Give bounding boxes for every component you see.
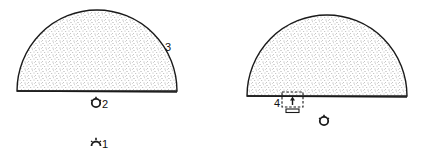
diagram-canvas: 3 2 1 4 xyxy=(0,0,422,149)
right-panel: 4 xyxy=(247,15,407,125)
right-dome xyxy=(247,15,407,96)
arrow-up-icon xyxy=(290,97,295,106)
source-label-2: 2 xyxy=(102,98,108,110)
left-panel: 3 2 1 xyxy=(17,10,177,149)
upper-source-icon xyxy=(91,97,101,107)
left-dome-base xyxy=(17,91,177,92)
right-dome-base xyxy=(247,96,407,97)
lower-source-icon xyxy=(91,138,101,146)
source-label-1: 1 xyxy=(102,138,108,149)
window-label-4: 4 xyxy=(274,97,280,109)
detector-plate xyxy=(286,109,299,113)
left-dome xyxy=(17,10,177,91)
right-source-icon xyxy=(319,115,329,125)
dome-label-3: 3 xyxy=(165,41,171,53)
